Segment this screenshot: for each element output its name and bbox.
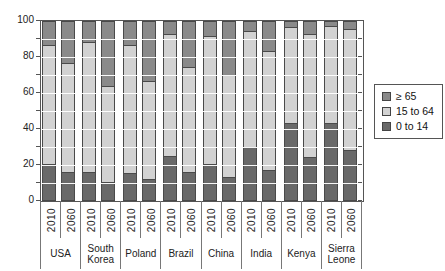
year-label-cell: 2010 bbox=[80, 201, 100, 238]
legend-label: 0 to 14 bbox=[396, 121, 428, 132]
bar-sierra-leone-2060 bbox=[343, 21, 357, 201]
y-axis-label-60: 60 bbox=[8, 87, 34, 97]
y-tick-right-90 bbox=[358, 38, 362, 39]
segment-0-to-14 bbox=[244, 147, 256, 200]
bar-south-korea-2010 bbox=[82, 21, 96, 201]
country-label-poland: Poland bbox=[120, 238, 160, 269]
bar-sierra-leone-2010 bbox=[324, 21, 338, 201]
y-tick-10 bbox=[36, 182, 40, 183]
segment-15-to-64 bbox=[244, 31, 256, 147]
bar-group-brazil bbox=[162, 21, 202, 201]
y-tick-40 bbox=[36, 128, 40, 129]
segment-15-to-64 bbox=[83, 42, 95, 172]
segment-≥-65 bbox=[244, 22, 256, 31]
segment-≥-65 bbox=[164, 22, 176, 34]
year-axis-row: 2010206020102060201020602010206020102060… bbox=[40, 201, 362, 238]
y-axis-label-0: 0 bbox=[8, 195, 34, 205]
segment-15-to-64 bbox=[43, 45, 55, 164]
year-label: 2060 bbox=[105, 207, 116, 231]
country-label-china: China bbox=[201, 238, 241, 269]
bar-poland-2060 bbox=[142, 21, 156, 201]
bar-india-2060 bbox=[262, 21, 276, 201]
bars-layer bbox=[41, 21, 363, 201]
country-axis-row: USASouth KoreaPolandBrazilChinaIndiaKeny… bbox=[40, 238, 362, 269]
year-label: 2060 bbox=[346, 207, 357, 231]
y-tick-right-20 bbox=[358, 164, 362, 165]
segment-15-to-64 bbox=[325, 26, 337, 124]
bar-brazil-2010 bbox=[163, 21, 177, 201]
year-label-cell: 2010 bbox=[241, 201, 261, 238]
y-tick-70 bbox=[36, 74, 40, 75]
segment-0-to-14 bbox=[304, 157, 316, 200]
country-label-kenya: Kenya bbox=[281, 238, 321, 269]
segment-0-to-14 bbox=[43, 164, 55, 200]
segment-15-to-64 bbox=[204, 36, 216, 164]
segment-0-to-14 bbox=[204, 164, 216, 200]
segment-≥-65 bbox=[223, 22, 235, 75]
segment-15-to-64 bbox=[183, 67, 195, 172]
y-tick-right-100 bbox=[358, 20, 362, 21]
year-label-cell: 2060 bbox=[221, 201, 241, 238]
segment-0-to-14 bbox=[62, 172, 74, 200]
segment-15-to-64 bbox=[124, 45, 136, 173]
segment-0-to-14 bbox=[164, 156, 176, 201]
bar-china-2060 bbox=[222, 21, 236, 201]
year-label: 2060 bbox=[145, 207, 156, 231]
y-axis-label-20: 20 bbox=[8, 159, 34, 169]
segment-0-to-14 bbox=[124, 173, 136, 200]
year-label-cell: 2060 bbox=[180, 201, 200, 238]
year-label: 2060 bbox=[226, 207, 237, 231]
segment-≥-65 bbox=[344, 22, 356, 29]
year-label-cell: 2010 bbox=[160, 201, 180, 238]
segment-0-to-14 bbox=[223, 177, 235, 200]
y-axis-label-80: 80 bbox=[8, 51, 34, 61]
year-label-cell: 2010 bbox=[281, 201, 301, 238]
legend-label: 15 to 64 bbox=[396, 106, 434, 117]
legend: ≥ 6515 to 640 to 14 bbox=[374, 84, 443, 139]
bar-group-china bbox=[202, 21, 242, 201]
legend-swatch-icon bbox=[382, 92, 391, 101]
segment-≥-65 bbox=[83, 22, 95, 42]
year-label-cell: 2010 bbox=[40, 201, 60, 238]
country-label-brazil: Brazil bbox=[160, 238, 200, 269]
segment-15-to-64 bbox=[304, 34, 316, 157]
year-label-cell: 2010 bbox=[321, 201, 341, 238]
y-tick-right-60 bbox=[358, 92, 362, 93]
bar-group-sierra-leone bbox=[323, 21, 363, 201]
segment-0-to-14 bbox=[83, 172, 95, 200]
year-label: 2010 bbox=[246, 207, 257, 231]
population-age-structure-chart: 020406080100 201020602010206020102060201… bbox=[0, 0, 445, 271]
bar-india-2010 bbox=[243, 21, 257, 201]
segment-≥-65 bbox=[124, 22, 136, 45]
year-label-cell: 2010 bbox=[120, 201, 140, 238]
segment-15-to-64 bbox=[143, 81, 155, 179]
year-label-cell: 2010 bbox=[201, 201, 221, 238]
country-label-south-korea: South Korea bbox=[80, 238, 120, 269]
legend-item: 15 to 64 bbox=[382, 106, 434, 117]
y-tick-80 bbox=[36, 56, 40, 57]
bar-usa-2060 bbox=[61, 21, 75, 201]
segment-0-to-14 bbox=[344, 150, 356, 200]
y-tick-right-80 bbox=[358, 56, 362, 57]
segment-≥-65 bbox=[102, 22, 114, 86]
y-tick-60 bbox=[36, 92, 40, 93]
y-tick-right-40 bbox=[358, 128, 362, 129]
y-tick-30 bbox=[36, 146, 40, 147]
bar-kenya-2010 bbox=[284, 21, 298, 201]
legend-label: ≥ 65 bbox=[396, 91, 416, 102]
segment-15-to-64 bbox=[164, 34, 176, 155]
segment-15-to-64 bbox=[263, 51, 275, 170]
bar-poland-2010 bbox=[123, 21, 137, 201]
segment-0-to-14 bbox=[285, 123, 297, 200]
bar-south-korea-2060 bbox=[101, 21, 115, 201]
segment-0-to-14 bbox=[263, 170, 275, 200]
year-label: 2010 bbox=[206, 207, 217, 231]
year-label: 2060 bbox=[65, 207, 76, 231]
segment-≥-65 bbox=[43, 22, 55, 45]
segment-≥-65 bbox=[143, 22, 155, 81]
country-label-sierra-leone: Sierra Leone bbox=[321, 238, 361, 269]
y-tick-0 bbox=[36, 200, 40, 201]
year-label-cell: 2060 bbox=[341, 201, 361, 238]
bar-group-india bbox=[242, 21, 282, 201]
legend-swatch-icon bbox=[382, 107, 391, 116]
